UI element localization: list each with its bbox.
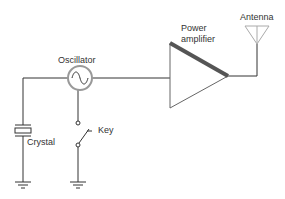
power-amplifier-label-line2: amplifier — [181, 34, 215, 44]
crystal-to-oscillator-wire — [23, 78, 68, 125]
antenna-label: Antenna — [240, 12, 274, 22]
crystal-ground-icon — [15, 182, 31, 188]
amp-to-antenna-wire — [228, 44, 257, 76]
key-ground-icon — [70, 182, 86, 188]
power-amplifier-label-line1: Power — [181, 23, 207, 33]
key-switch-icon — [76, 121, 92, 182]
crystal-label: Crystal — [27, 137, 55, 147]
power-amplifier-icon — [170, 43, 228, 108]
oscillator-icon — [68, 66, 92, 90]
oscillator-label: Oscillator — [58, 55, 96, 65]
antenna-icon — [245, 26, 269, 44]
transmitter-diagram: Crystal Oscillator Key Power amplifier A… — [0, 0, 285, 199]
crystal-symbol — [15, 125, 31, 182]
key-label: Key — [98, 125, 114, 135]
